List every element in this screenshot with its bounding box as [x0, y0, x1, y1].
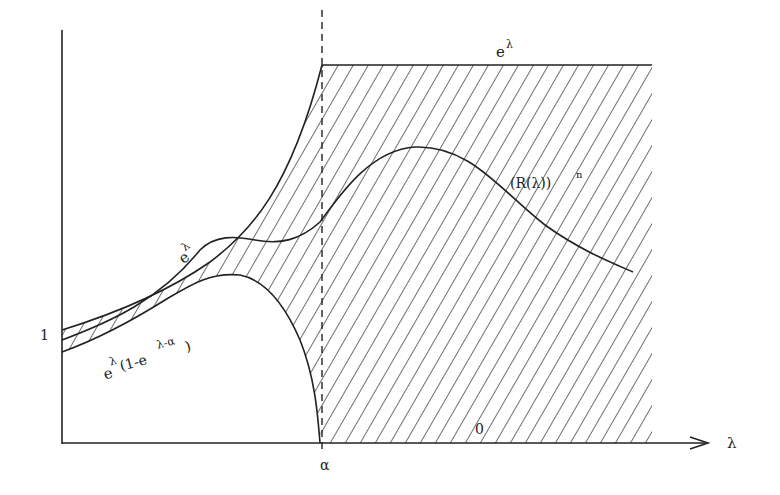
label-R-lambda-n: (R(λ)) n	[508, 169, 584, 194]
svg-text:e: e	[496, 43, 505, 61]
x-axis-label-lambda: λ	[727, 434, 737, 452]
label-zero: 0	[475, 421, 484, 437]
svg-text:λ: λ	[506, 38, 513, 51]
svg-text:n: n	[576, 169, 583, 180]
svg-text:(1-e: (1-e	[118, 351, 149, 374]
svg-text:): )	[183, 337, 192, 354]
hatched-band-left	[62, 65, 322, 443]
svg-text:(R(λ)): (R(λ))	[510, 175, 551, 191]
figure-diagram: e λ e λ e λ (1-e λ-α ) (R(λ)) n 0 1 α λ	[0, 0, 780, 495]
label-e-lambda-top: e λ	[496, 38, 513, 61]
hatched-region-right	[322, 65, 652, 443]
label-e-lambda-left: e λ	[172, 239, 199, 267]
y-tick-label-one: 1	[40, 327, 49, 343]
svg-text:λ-α: λ-α	[155, 334, 176, 351]
x-tick-label-alpha: α	[320, 457, 330, 473]
label-lower-bound: e λ (1-e λ-α )	[98, 331, 194, 384]
